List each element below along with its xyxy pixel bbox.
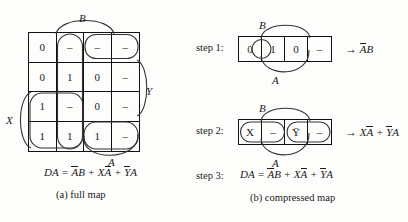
step-2-label: step 2: [196, 125, 224, 136]
step-1-cell: 0 [285, 37, 308, 61]
kmap-cell: 1 [57, 63, 85, 93]
kmap-cell: – [112, 63, 140, 93]
kmap-cell: – [84, 33, 112, 63]
step-3-term2-overbar: A [301, 168, 308, 181]
step-3-plus-2: + [310, 168, 317, 180]
step-1-result-plain: B [366, 43, 373, 55]
step-3-plus-1: + [284, 168, 291, 180]
kmap-cell: 1 [57, 122, 85, 152]
step-1-cell: 0 [239, 37, 262, 61]
step-2-result: → XA + YA [345, 125, 399, 140]
kmap-cell: 0 [84, 63, 112, 93]
step-1-label: step 1: [196, 42, 224, 53]
step-1-cell-circled: 1 [262, 37, 285, 61]
step-3-term1-plain: B [274, 168, 281, 180]
step-1-top-label-b: B [259, 19, 266, 31]
kmap-cell: – [112, 122, 140, 152]
full-map-formula: DA = AB + XA + YA [44, 166, 137, 179]
step-2-strip: X – Ȳ – [238, 119, 332, 145]
kmap-cell: 1 [29, 92, 57, 122]
kmap-cell: 1 [84, 122, 112, 152]
formula-plus-1: + [88, 166, 95, 178]
step-2-cell: Ȳ [285, 120, 308, 144]
kmap-cell: 0 [29, 63, 57, 93]
step-2-top-label-b: B [259, 102, 266, 114]
step-1-bottom-label-a: A [272, 74, 279, 86]
kmap-cell: – [112, 92, 140, 122]
full-map-top-label-b: B [79, 12, 86, 24]
step-1-strip: 0 1 0 – [238, 36, 332, 62]
arrow-right-icon: → [345, 42, 357, 56]
full-map-caption: (a) full map [56, 189, 106, 200]
kmap-cell: 1 [29, 122, 57, 152]
formula-term3-plain: A [130, 166, 137, 178]
figure-canvas: B X Y A 0 – – – 0 1 0 – 1 – 0 – 1 1 1 – … [0, 0, 408, 222]
formula-lhs: DA = [44, 166, 69, 178]
step-2-result-plus: + [376, 126, 383, 138]
step-1-result-overbar: A [360, 43, 367, 56]
step-2-cell: – [262, 120, 285, 144]
step-1-result: → AB [345, 42, 373, 57]
full-map-grid: 0 – – – 0 1 0 – 1 – 0 – 1 1 1 – [28, 32, 140, 152]
kmap-cell: 0 [84, 92, 112, 122]
formula-term2-overbar: A [105, 166, 112, 179]
step-3-term3-plain: A [326, 168, 333, 180]
step-3-term1-overbar: A [267, 168, 274, 181]
arrow-right-icon: → [345, 125, 357, 139]
step-2-result-t1-overbar: A [366, 126, 373, 139]
full-map-right-label-y: Y [146, 85, 152, 97]
step-2-cell: X [239, 120, 262, 144]
step-3-label: step 3: [196, 170, 224, 181]
step-3-term2-plain: X [294, 168, 301, 180]
full-map-left-label-x: X [6, 114, 13, 126]
formula-term1-plain: B [78, 166, 85, 178]
step-2-result-t2-plain: A [392, 126, 399, 138]
compressed-map-caption: (b) compressed map [250, 192, 335, 203]
kmap-cell: – [57, 92, 85, 122]
step-3-formula: DA = AB + XA + YA [240, 168, 333, 181]
formula-term2-plain: X [98, 166, 105, 178]
formula-plus-2: + [114, 166, 121, 178]
kmap-cell: 0 [29, 33, 57, 63]
step-2-cell: – [308, 120, 331, 144]
step-3-formula-lhs: DA = [240, 168, 265, 180]
step-1-cell: – [308, 37, 331, 61]
kmap-cell: – [57, 33, 85, 63]
formula-term1-overbar: A [71, 166, 78, 179]
kmap-cell: – [112, 33, 140, 63]
